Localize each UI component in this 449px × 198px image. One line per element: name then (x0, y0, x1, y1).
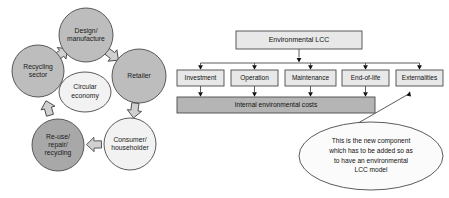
re-use-repair-recycling-label-line-0: Re-use/ (46, 133, 70, 140)
callout-leader-arrowhead (406, 91, 411, 96)
arrow-retailer-to-consumer (126, 102, 142, 119)
recycling-sector-label-line-0: Recycling (23, 63, 53, 71)
internal-environmental-costs-label: Internal environmental costs (235, 101, 318, 108)
retailer-label-line-0: Retailer (127, 72, 151, 79)
new-component-callout-text-line-2: to have an environmental (334, 157, 409, 164)
arrow-reuse-to-recycling-sector (39, 99, 57, 117)
new-component-callout-text-line-3: LCC model (355, 166, 389, 173)
box-operation[interactable]: Operation (231, 70, 278, 86)
box-end-of-life[interactable]: End-of-life (342, 70, 389, 86)
consumer-householder-label-line-0: Consumer/ (113, 136, 146, 143)
node-design-manufacture[interactable]: Design/manufacture (59, 8, 113, 62)
diagram-svg: Design/manufactureRetailerConsumer/house… (0, 0, 449, 198)
box-environmental-lcc[interactable]: Environmental LCC (236, 31, 362, 49)
arrow-consumer-to-reuse (86, 137, 101, 152)
environmental-lcc-label: Environmental LCC (269, 36, 330, 43)
node-consumer-householder[interactable]: Consumer/householder (104, 118, 156, 170)
arrowhead-bus-maintenance (308, 65, 313, 69)
arrowhead-bus-end-of-life (363, 65, 368, 69)
node-re-use-repair-recycling[interactable]: Re-use/repair/recycling (32, 119, 84, 171)
node-circular-economy[interactable]: Circulareconomy (59, 72, 111, 112)
arrowhead-bar-maintenance (308, 92, 313, 96)
root-stem-arrowhead (297, 58, 302, 62)
operation-label: Operation (240, 74, 269, 82)
box-maintenance[interactable]: Maintenance (285, 70, 336, 86)
re-use-repair-recycling-label-line-1: repair/ (48, 141, 67, 149)
maintenance-label: Maintenance (292, 74, 330, 81)
new-component-callout-text-line-0: This is the new component (332, 137, 411, 145)
circular-economy-cycle: Design/manufactureRetailerConsumer/house… (12, 8, 166, 171)
environmental-lcc-tree: Environmental LCCInvestmentOperationMain… (177, 31, 443, 113)
bar-internal-environmental-costs[interactable]: Internal environmental costs (177, 97, 375, 113)
end-of-life-label: End-of-life (351, 74, 381, 81)
box-externalities[interactable]: Externalities (396, 70, 443, 86)
node-retailer[interactable]: Retailer (112, 49, 166, 103)
circular-economy-label-line-1: economy (71, 92, 99, 100)
node-recycling-sector[interactable]: Recyclingsector (12, 45, 64, 97)
box-investment[interactable]: Investment (177, 70, 224, 86)
figure-canvas: Design/manufactureRetailerConsumer/house… (0, 0, 449, 198)
recycling-sector-label-line-1: sector (29, 71, 48, 78)
consumer-householder-label-line-1: householder (111, 144, 149, 151)
design-manufacture-label-line-1: manufacture (67, 35, 105, 42)
new-component-callout-text-line-1: which has to be added so as (328, 147, 413, 154)
arrowhead-bus-investment (198, 65, 203, 69)
arrowhead-bar-operation (252, 92, 257, 96)
arrowhead-bus-operation (252, 65, 257, 69)
arrowhead-bus-externalities (417, 65, 422, 69)
re-use-repair-recycling-label-line-2: recycling (45, 149, 72, 157)
design-manufacture-label-line-0: Design/ (74, 27, 97, 35)
circular-economy-label-line-0: Circular (73, 83, 97, 90)
arrowhead-bar-end-of-life (363, 92, 368, 96)
investment-label: Investment (185, 74, 217, 81)
arrowhead-bar-investment (198, 92, 203, 96)
externalities-label: Externalities (402, 74, 438, 81)
